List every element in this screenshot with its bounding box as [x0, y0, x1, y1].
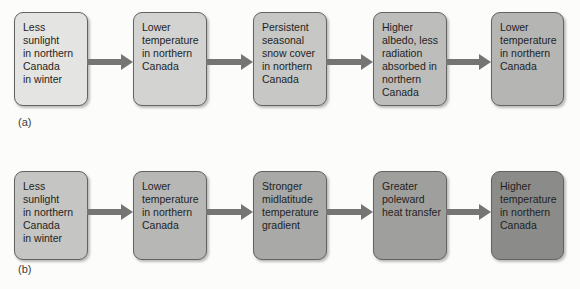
arrow-head: [361, 204, 373, 220]
arrow-right-icon: [446, 204, 491, 220]
flow-box-b3: Stronger midlatitude temperature gradien…: [253, 171, 327, 260]
arrow-shaft: [446, 59, 480, 65]
arrow-shaft: [87, 209, 122, 215]
flow-box-a5: Lower temperature in northern Canada: [491, 12, 564, 106]
arrow-right-icon: [326, 54, 373, 70]
flow-box-b5: Higher temperature in northern Canada: [491, 171, 564, 260]
figure-label-a: (a): [18, 116, 31, 128]
arrow-head: [121, 54, 133, 70]
arrow-right-icon: [87, 204, 133, 220]
flow-box-a2: Lower temperature in northern Canada: [133, 12, 207, 106]
arrow-head: [479, 204, 491, 220]
arrow-right-icon: [326, 204, 373, 220]
arrow-shaft: [206, 59, 242, 65]
flow-box-b1: Less sunlight in northern Canada in wint…: [14, 171, 88, 260]
flow-box-a3: Persistent seasonal snow cover in northe…: [253, 12, 327, 106]
flow-box-a4: Higher albedo, less radiation absorbed i…: [373, 12, 447, 106]
flow-box-b4: Greater poleward heat transfer: [373, 171, 447, 260]
arrow-head: [479, 54, 491, 70]
flow-box-a1: Less sunlight in northern Canada in wint…: [14, 12, 88, 106]
arrow-shaft: [326, 209, 362, 215]
arrow-head: [361, 54, 373, 70]
arrow-head: [241, 54, 253, 70]
arrow-shaft: [326, 59, 362, 65]
figure-label-b: (b): [18, 263, 31, 275]
flow-diagram: Less sunlight in northern Canada in wint…: [0, 0, 580, 289]
arrow-right-icon: [446, 54, 491, 70]
arrow-shaft: [446, 209, 480, 215]
arrow-shaft: [87, 59, 122, 65]
arrow-right-icon: [206, 204, 253, 220]
flow-box-b2: Lower temperature in northern Canada: [133, 171, 207, 260]
arrow-right-icon: [87, 54, 133, 70]
arrow-head: [121, 204, 133, 220]
arrow-shaft: [206, 209, 242, 215]
arrow-head: [241, 204, 253, 220]
arrow-right-icon: [206, 54, 253, 70]
